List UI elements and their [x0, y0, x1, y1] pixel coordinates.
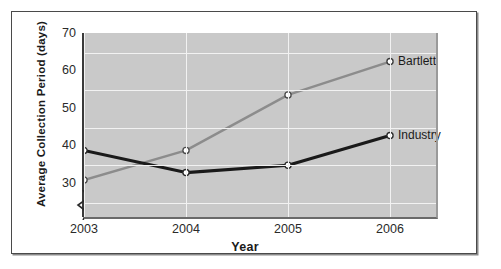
y-tick-label-40: 40: [48, 138, 76, 152]
gridline-x-2003: [84, 33, 85, 217]
series-label-bartlett: Bartlett: [398, 54, 436, 68]
gridline-y-50: [84, 128, 436, 129]
x-tick-label-2006: 2006: [360, 222, 420, 236]
y-tick-label-30: 30: [48, 176, 76, 190]
y-tick-label-60: 60: [48, 63, 76, 77]
chart-frame: Average Collection Period (days) 70 60 5…: [11, 11, 477, 254]
series-label-industry: Industry: [398, 128, 441, 142]
gridline-x-2005: [288, 33, 289, 217]
gridline-y-60: [84, 90, 436, 91]
x-tick-label-2003: 2003: [54, 222, 114, 236]
chart-figure: Average Collection Period (days) 70 60 5…: [0, 0, 501, 269]
y-axis-title: Average Collection Period (days): [35, 19, 47, 209]
gridline-x-2006: [390, 33, 391, 217]
plot-area: Bartlett Industry: [84, 33, 436, 217]
gridline-y-70: [84, 53, 436, 54]
x-axis-title: Year: [12, 240, 478, 254]
y-tick-label-50: 50: [48, 101, 76, 115]
gridline-x-2004: [186, 33, 187, 217]
series-lines: [84, 33, 436, 217]
y-tick-label-70: 70: [48, 26, 76, 40]
gridline-y-40: [84, 165, 436, 166]
x-tick-label-2004: 2004: [156, 222, 216, 236]
x-tick-label-2005: 2005: [258, 222, 318, 236]
series-line-bartlett: [84, 62, 390, 180]
gridline-y-30: [84, 203, 436, 204]
